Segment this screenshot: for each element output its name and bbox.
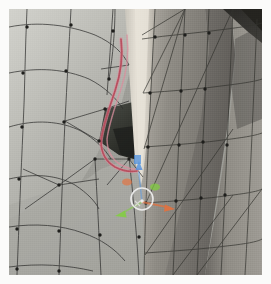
mesh-render[interactable] <box>9 9 262 275</box>
mesh-face-right-shadow <box>231 25 262 129</box>
viewport-3d[interactable] <box>9 9 262 275</box>
screenshot-root: 3D Viewport Edit Mode Solid Wireframe Se… <box>0 0 271 284</box>
